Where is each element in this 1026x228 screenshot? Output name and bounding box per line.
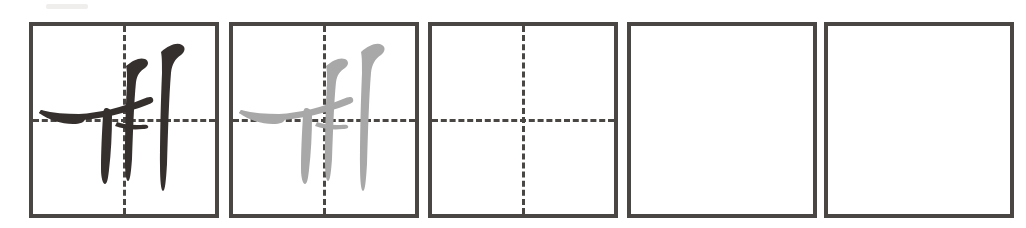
practice-cell-2-tracing[interactable] [229, 22, 419, 218]
hangul-glyph-we-gray-trace [233, 26, 415, 214]
practice-cell-1-model[interactable] [29, 22, 219, 218]
practice-cell-4-empty[interactable] [627, 22, 817, 218]
hangul-glyph-we-dark [33, 26, 215, 214]
practice-cell-3-empty-guided[interactable] [428, 22, 618, 218]
scan-artifact [46, 4, 88, 9]
practice-cell-5-empty[interactable] [824, 22, 1014, 218]
guide-line-vertical [522, 26, 525, 214]
hangul-practice-worksheet [0, 0, 1026, 228]
guide-line-horizontal [432, 119, 614, 122]
